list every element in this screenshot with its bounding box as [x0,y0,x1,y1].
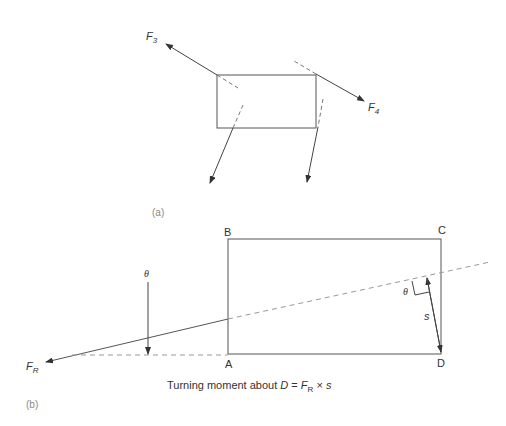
angle-label-right: θ [403,286,408,297]
force-left-down-extension [233,105,243,128]
force-f3-extension [217,75,238,88]
panel-label-a: (a) [152,207,164,218]
force-right-down-line [307,127,318,182]
force-left-down-line [210,128,233,183]
corner-label-b: B [224,226,231,238]
figure-a: F3 F4 (a) [146,30,380,218]
corner-label-c: C [438,224,446,236]
resultant-force-label: FR [26,360,39,375]
force-f4-label: F4 [368,101,380,116]
angle-label-left: θ [144,268,149,279]
force-f3-label: F3 [146,30,158,45]
resultant-force-line [46,319,228,362]
body-rectangle-b [228,239,441,354]
turning-moment-caption: Turning moment about D = FR × s [167,379,332,394]
resultant-line-of-action [228,262,490,319]
corner-label-d: D [437,357,445,369]
force-f4-line [316,74,364,101]
panel-label-b: (b) [26,399,38,410]
force-f3-line [166,44,217,75]
distance-label-s: s [424,310,430,322]
force-right-down-extension [318,99,323,127]
right-angle-marker [412,281,429,295]
force-f4-extension [294,61,316,74]
figure-b: B C A D FR θ θ s Turning moment about D … [26,224,490,410]
corner-label-a: A [225,358,233,370]
force-diagram: F3 F4 (a) B C A D FR θ θ s [0,0,506,426]
body-rectangle-a [217,75,316,128]
